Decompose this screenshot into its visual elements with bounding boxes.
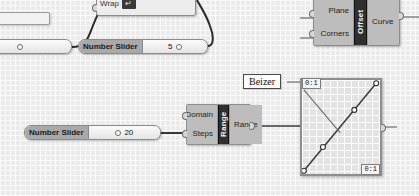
number-slider-bottom-label: Number Slider (25, 126, 89, 139)
graph-control-point (302, 168, 306, 173)
component-range[interactable]: Domain Steps Range Range (186, 104, 251, 145)
number-slider-top-handle[interactable] (176, 44, 182, 50)
graph-mapper[interactable]: 0:1 0:1 (300, 78, 382, 176)
range-outputs: Range (229, 105, 262, 144)
offset-port-corners[interactable] (309, 30, 314, 38)
graph-tag-top-left: 0:1 (302, 78, 321, 89)
graph-control-point (374, 81, 379, 86)
offset-output-curve[interactable]: Curve (368, 18, 397, 26)
offset-input-plane[interactable]: Plane (325, 7, 353, 15)
offset-outputs: Curve (367, 0, 399, 45)
grasshopper-canvas[interactable]: x Wrap ↵ Plane Corners Offset Curve Numb… (0, 0, 419, 196)
panel-strip-partial[interactable] (0, 12, 50, 25)
number-slider-bottom-handle[interactable] (115, 130, 121, 136)
offset-port-plane[interactable] (309, 10, 314, 18)
number-slider-bottom-value: 20 (124, 128, 133, 137)
number-slider-top-label: Number Slider (79, 40, 143, 53)
offset-input-corners[interactable]: Corners (317, 30, 353, 38)
number-slider-top-track[interactable]: 5 (143, 40, 207, 53)
wrap-toggle-icon[interactable]: ↵ (122, 0, 136, 9)
graph-control-point (320, 145, 325, 150)
range-output-range[interactable]: Range (230, 121, 262, 129)
number-slider-top[interactable]: Number Slider 5 (78, 39, 208, 54)
range-port-steps[interactable] (182, 130, 187, 138)
graph-mapper-output-port[interactable] (381, 124, 386, 132)
offset-inputs: Plane Corners (314, 0, 354, 45)
number-slider-top-value: 5 (168, 42, 172, 51)
offset-port-curve[interactable] (399, 12, 404, 20)
wrap-label: Wrap (97, 0, 122, 8)
component-offset[interactable]: Plane Corners Offset Curve (313, 0, 400, 46)
range-inputs: Domain Steps (187, 105, 218, 144)
number-slider-bottom[interactable]: Number Slider 20 (24, 125, 161, 140)
slider-handle-icon[interactable] (17, 44, 23, 50)
graph-mapper-curve[interactable] (302, 80, 380, 174)
slider-partial-left[interactable]: x (0, 39, 72, 54)
wrap-input-port[interactable] (92, 4, 97, 12)
graph-tag-bottom-right: 0:1 (361, 164, 380, 175)
callout-beizer: Beizer (243, 74, 281, 89)
range-port-domain[interactable] (182, 112, 187, 120)
graph-construction-line (304, 90, 340, 133)
component-wrap[interactable]: Wrap ↵ (96, 0, 196, 16)
slider-partial-left-track[interactable] (0, 40, 71, 53)
graph-curve-path (304, 83, 376, 171)
offset-name-label: Offset (354, 0, 367, 45)
range-name-label: Range (218, 105, 229, 144)
graph-control-point (352, 107, 357, 112)
number-slider-bottom-track[interactable]: 20 (89, 126, 160, 139)
range-input-steps[interactable]: Steps (189, 130, 217, 138)
